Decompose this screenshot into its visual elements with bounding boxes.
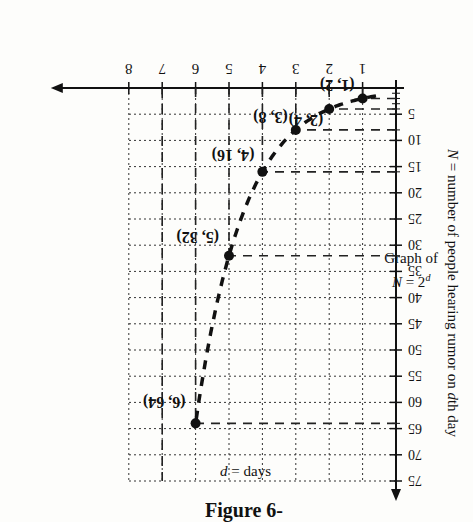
data-point-label: (5, 32) bbox=[176, 228, 219, 246]
y-tick-label: 20 bbox=[408, 185, 422, 200]
x-tick-label: 6 bbox=[191, 61, 199, 77]
y-tick-label: 50 bbox=[408, 342, 422, 357]
x-axis-var: d bbox=[220, 463, 228, 479]
data-point-label: (3, 8) bbox=[253, 108, 288, 126]
x-tick-label: 1 bbox=[359, 61, 367, 77]
y-tick-label: 60 bbox=[408, 394, 422, 409]
figure-title: Figure 6- bbox=[205, 499, 283, 522]
exponential-curve bbox=[196, 96, 376, 424]
y-tick-label: 75 bbox=[408, 473, 422, 488]
data-point bbox=[224, 251, 234, 261]
x-tick-label: 5 bbox=[225, 61, 233, 77]
x-axis-label: d = days bbox=[220, 463, 271, 480]
x-tick-label: 8 bbox=[125, 61, 133, 77]
y-tick-label: 15 bbox=[408, 159, 422, 174]
graph-title-line2: N = 2d bbox=[384, 268, 438, 292]
y-tick-label: 10 bbox=[408, 132, 422, 147]
y-tick-label: 65 bbox=[408, 421, 422, 436]
graph-title: Graph of N = 2d bbox=[384, 248, 438, 292]
x-tick-label: 4 bbox=[258, 61, 266, 77]
data-point bbox=[291, 125, 301, 135]
figure-title-text: Figure 6- bbox=[205, 499, 283, 521]
y-tick-label: 25 bbox=[408, 211, 422, 226]
y-tick-label: 45 bbox=[408, 316, 422, 331]
y-tick-label: 5 bbox=[408, 106, 415, 121]
x-tick-label: 7 bbox=[158, 61, 166, 77]
data-point-label: (1, 2) bbox=[320, 76, 355, 94]
graph-title-exp: d bbox=[425, 272, 430, 283]
y-axis-arrow-icon bbox=[391, 489, 401, 501]
data-point bbox=[358, 93, 368, 103]
data-point-label: (6, 64) bbox=[143, 393, 186, 411]
data-point-label: (4, 16) bbox=[212, 146, 255, 164]
graph-title-line1: Graph of bbox=[384, 248, 438, 268]
x-tick-label: 3 bbox=[292, 61, 300, 77]
x-axis-arrow-icon bbox=[51, 83, 63, 93]
data-point bbox=[324, 104, 334, 114]
x-tick-label: 2 bbox=[325, 61, 333, 77]
y-tick-label: 55 bbox=[408, 368, 422, 383]
data-point bbox=[191, 418, 201, 428]
y-axis-label-text: N = number of people hearing rumor on dt… bbox=[445, 148, 461, 437]
y-tick-label: 70 bbox=[408, 447, 422, 462]
x-axis-label-text: = days bbox=[228, 463, 271, 479]
data-point bbox=[257, 167, 267, 177]
